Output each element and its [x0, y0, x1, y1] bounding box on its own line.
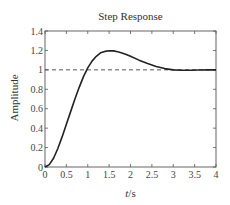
- y-tick-label: 0.2: [31, 142, 44, 153]
- y-tick-label: 1: [38, 64, 43, 75]
- plot-frame: [45, 31, 216, 167]
- response-curve: [45, 51, 216, 167]
- step-response-chart: 00.511.522.533.5400.20.40.60.811.21.4: [0, 0, 230, 205]
- plot-axes: [45, 31, 216, 167]
- y-tick-label: 0.4: [31, 123, 44, 134]
- x-tick-label: 1.5: [103, 169, 116, 180]
- y-tick-label: 1.2: [31, 45, 44, 56]
- x-tick-label: 3.5: [188, 169, 201, 180]
- x-tick-label: 2: [128, 169, 133, 180]
- y-tick-label: 0.8: [31, 84, 44, 95]
- y-tick-label: 0: [38, 162, 43, 173]
- x-tick-label: 0: [43, 169, 48, 180]
- y-tick-label: 0.6: [31, 103, 44, 114]
- x-tick-label: 2.5: [146, 169, 159, 180]
- x-tick-label: 1: [85, 169, 90, 180]
- x-tick-label: 4: [214, 169, 219, 180]
- axis-ticks: 00.511.522.533.5400.20.40.60.811.21.4: [31, 26, 219, 181]
- x-tick-label: 3: [171, 169, 176, 180]
- y-tick-label: 1.4: [31, 26, 44, 37]
- x-tick-label: 0.5: [60, 169, 73, 180]
